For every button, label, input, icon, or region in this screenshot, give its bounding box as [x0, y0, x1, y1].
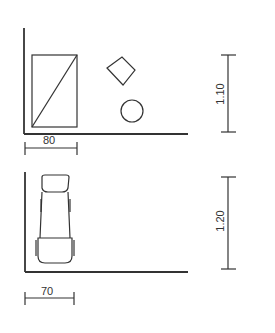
bottom-axes: [25, 172, 188, 272]
wheelchair-icon: [36, 175, 74, 263]
circle-shape: [121, 100, 143, 122]
diamond-shape: [107, 57, 135, 85]
top-axes: [24, 28, 188, 134]
rectangle-diagonal-shape: [32, 55, 77, 127]
label-80: 80: [43, 134, 55, 146]
label-70: 70: [41, 285, 53, 297]
label-110: 1.10: [214, 74, 226, 114]
label-120: 1.20: [214, 201, 226, 241]
diagram-canvas: [0, 0, 275, 333]
